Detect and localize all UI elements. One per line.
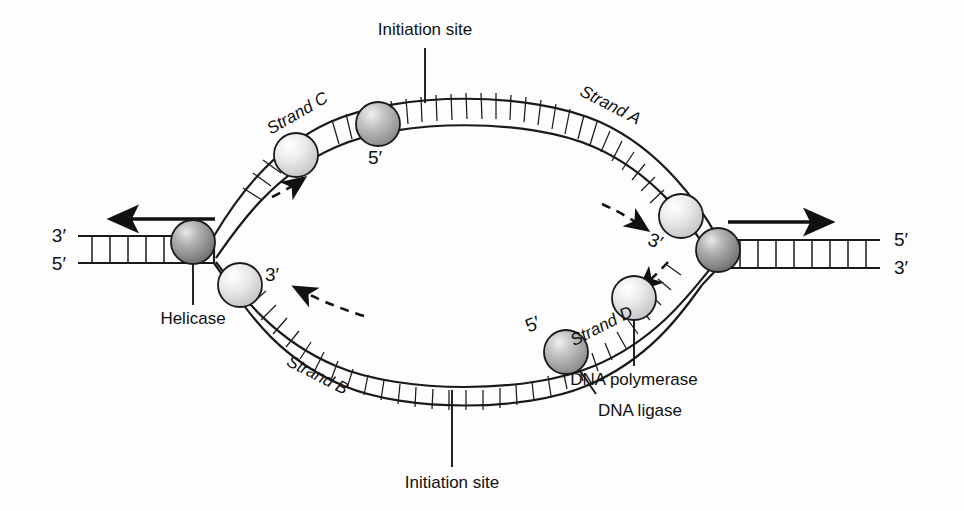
helicase-label: Helicase	[160, 309, 225, 328]
helicase-sphere-right	[696, 228, 740, 272]
rungs-upper-right	[481, 93, 681, 228]
left-top-end-label: 3′	[52, 225, 67, 246]
strand-a-label: Strand A	[577, 82, 644, 129]
initiation-site-top-label: Initiation site	[378, 20, 473, 39]
helicase-sphere-left	[171, 220, 215, 264]
dna-polymerase-label: DNA polymerase	[570, 370, 698, 389]
right-bottom-end-label: 3′	[894, 257, 909, 278]
strand-d-label: Strand D	[567, 302, 635, 349]
dna-replication-diagram: Initiation site Initiation site Helicase…	[0, 0, 964, 511]
dna-polymerase-sphere-strand-b	[218, 263, 262, 307]
dna-ligase-sphere-strand-c	[356, 102, 400, 146]
initiation-site-bottom-label: Initiation site	[405, 473, 500, 492]
dna-polymerase-sphere-strand-a	[659, 194, 703, 238]
strand-b-3prime-label: 3′	[265, 264, 280, 285]
strand-d-5prime-label: 5′	[522, 311, 543, 336]
dna-polymerase-sphere-strand-c	[274, 133, 318, 177]
strand-a-3prime-label: 3′	[645, 229, 666, 254]
strand-c-synthesis-arrow	[272, 179, 303, 197]
strand-b-synthesis-arrow	[296, 288, 364, 316]
strand-a-synthesis-arrow	[602, 204, 646, 229]
dna-ligase-label: DNA ligase	[598, 401, 682, 420]
synthesis-arrows	[272, 179, 668, 316]
strand-c-label: Strand C	[263, 88, 331, 138]
left-bottom-end-label: 5′	[52, 253, 67, 274]
strand-b-label: Strand B	[284, 352, 352, 399]
fork-movement-arrows	[112, 219, 830, 222]
right-top-end-label: 5′	[894, 229, 909, 250]
strand-c-5prime-label: 5′	[368, 147, 383, 168]
right-duplex	[722, 240, 880, 268]
